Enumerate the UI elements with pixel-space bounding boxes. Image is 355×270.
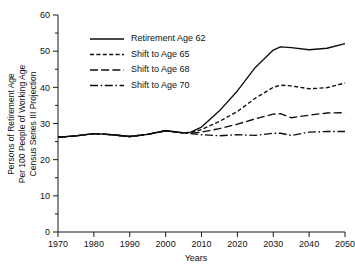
x-tick-label: 2010	[191, 239, 211, 249]
y-axis-title-line-3: Census Series III Projection	[28, 71, 38, 176]
y-tick-label: 40	[40, 83, 50, 93]
x-tick-label: 2000	[156, 239, 176, 249]
series-line-1	[58, 44, 345, 138]
series-layer	[58, 44, 345, 138]
x-tick-label: 2050	[335, 239, 355, 249]
y-tick-label: 30	[40, 119, 50, 129]
chart-figure: Persons of Retirement Age Per 100 People…	[0, 0, 355, 270]
line-chart: Persons of Retirement Age Per 100 People…	[0, 0, 355, 270]
x-tick-label: 1970	[48, 239, 68, 249]
legend-item-3: Shift to Age 68	[90, 64, 190, 74]
x-tick-label: 2030	[263, 239, 283, 249]
x-tick-label: 2020	[227, 239, 247, 249]
y-axis-title-line-1: Persons of Retirement Age	[6, 73, 16, 175]
x-tick-label: 1990	[120, 239, 140, 249]
y-tick-label: 0	[45, 227, 50, 237]
legend-item-2: Shift to Age 65	[90, 49, 190, 59]
y-tick-label: 10	[40, 191, 50, 201]
y-tick-label: 20	[40, 155, 50, 165]
legend-label: Shift to Age 70	[131, 80, 190, 90]
y-tick-label: 50	[40, 46, 50, 56]
y-tick-label: 60	[40, 10, 50, 20]
x-tick-label: 1980	[84, 239, 104, 249]
x-axis-title: Years	[185, 253, 208, 263]
legend-label: Shift to Age 65	[131, 49, 190, 59]
legend-item-1: Retirement Age 62	[90, 33, 206, 43]
chart-legend: Retirement Age 62Shift to Age 65Shift to…	[90, 33, 206, 90]
legend-item-4: Shift to Age 70	[90, 80, 190, 90]
legend-label: Shift to Age 68	[131, 64, 190, 74]
legend-label: Retirement Age 62	[131, 33, 206, 43]
series-line-2	[58, 83, 345, 137]
x-axis: 197019801990200020102020203020402050	[48, 232, 355, 249]
y-axis-title: Persons of Retirement Age Per 100 People…	[6, 65, 38, 184]
y-axis: 0102030405060	[40, 10, 58, 237]
y-axis-title-line-2: Per 100 People of Working Age	[17, 65, 27, 184]
x-tick-label: 2040	[299, 239, 319, 249]
